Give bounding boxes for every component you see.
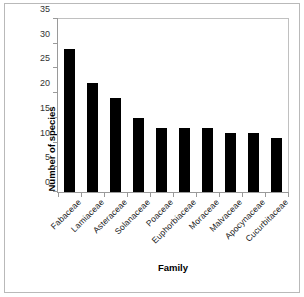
bar[interactable] bbox=[271, 138, 282, 192]
x-axis-tick-labels: FabaceaeLamiaceaeAsteraceaeSolanaceaePoa… bbox=[58, 197, 288, 257]
y-axis-tick-label: 35 bbox=[40, 4, 50, 14]
y-axis-tick-label: 20 bbox=[40, 78, 50, 88]
bar-slot bbox=[58, 19, 81, 192]
x-axis-title: Family bbox=[57, 262, 289, 273]
bar-slot bbox=[127, 19, 150, 192]
y-axis-tick bbox=[53, 18, 58, 19]
bar[interactable] bbox=[156, 128, 167, 192]
bar[interactable] bbox=[64, 49, 75, 192]
bar-slot bbox=[104, 19, 127, 192]
y-axis-tick-label: 5 bbox=[45, 152, 50, 162]
y-axis-tick-label: 15 bbox=[40, 103, 50, 113]
bar[interactable] bbox=[133, 118, 144, 192]
bar[interactable] bbox=[202, 128, 213, 192]
y-axis-tick bbox=[53, 67, 58, 68]
bar-slot bbox=[219, 19, 242, 192]
y-axis-tick bbox=[53, 142, 58, 143]
x-axis-tick bbox=[288, 192, 289, 197]
bar-slot bbox=[81, 19, 104, 192]
bar[interactable] bbox=[248, 133, 259, 192]
bar[interactable] bbox=[225, 133, 236, 192]
bar-slot bbox=[173, 19, 196, 192]
y-axis-tick-label: 10 bbox=[40, 128, 50, 138]
bar-slot bbox=[150, 19, 173, 192]
y-axis-tick bbox=[53, 43, 58, 44]
bar-chart-figure: Number of species 05101520253035 Fabacea… bbox=[0, 0, 304, 297]
bar[interactable] bbox=[110, 98, 121, 192]
bar[interactable] bbox=[87, 83, 98, 192]
y-axis-tick bbox=[53, 117, 58, 118]
bar[interactable] bbox=[179, 128, 190, 192]
y-axis-tick-label: 25 bbox=[40, 53, 50, 63]
bar-series bbox=[58, 19, 288, 192]
bar-slot bbox=[196, 19, 219, 192]
bar-slot bbox=[265, 19, 288, 192]
plot-area: 05101520253035 bbox=[58, 19, 288, 192]
y-axis-tick bbox=[53, 92, 58, 93]
bar-slot bbox=[242, 19, 265, 192]
y-axis-tick bbox=[53, 166, 58, 167]
y-axis-tick-label: 0 bbox=[45, 177, 50, 187]
y-axis-tick-label: 30 bbox=[40, 29, 50, 39]
